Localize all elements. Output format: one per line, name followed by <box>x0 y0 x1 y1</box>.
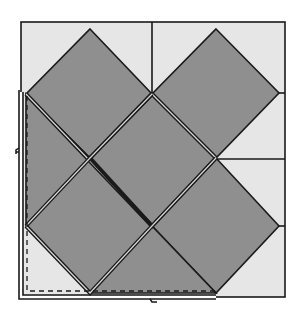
quilt-block-diagram <box>0 0 304 314</box>
